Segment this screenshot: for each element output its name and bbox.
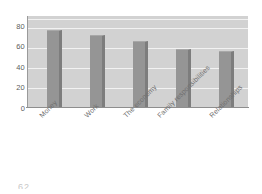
y-tick-label-40: 40 <box>3 64 25 72</box>
bar-work <box>90 35 105 108</box>
y-tick-label-80: 80 <box>3 23 25 31</box>
bar-chart: 80 60 40 20 0 Money Work The economy Fam… <box>0 0 262 194</box>
y-tick-label-60: 60 <box>3 43 25 51</box>
y-tick-label-20: 20 <box>3 84 25 92</box>
page-scan-artifact: 62 <box>18 183 30 189</box>
bar-money <box>47 30 62 108</box>
y-axis: 80 60 40 20 0 <box>0 16 25 108</box>
bars-layer <box>27 16 248 108</box>
x-axis-labels: Money Work The economy Family responsibi… <box>0 108 262 194</box>
